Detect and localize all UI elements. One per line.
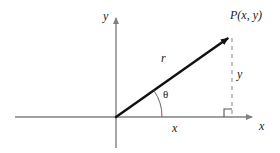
radius-label: r <box>161 52 166 64</box>
angle-arc <box>154 90 162 117</box>
right-angle-marker-icon <box>224 109 232 117</box>
radius-ray-line <box>116 39 228 118</box>
y-axis-label: y <box>103 10 108 22</box>
point-p-label: P(x, y) <box>230 9 262 21</box>
segment-x-label: x <box>172 122 177 134</box>
theta-angle-label: θ <box>163 89 168 100</box>
x-axis-label: x <box>259 120 264 132</box>
polar-coordinates-figure: y x P(x, y) r y x θ <box>0 0 280 153</box>
segment-y-label: y <box>237 68 242 80</box>
